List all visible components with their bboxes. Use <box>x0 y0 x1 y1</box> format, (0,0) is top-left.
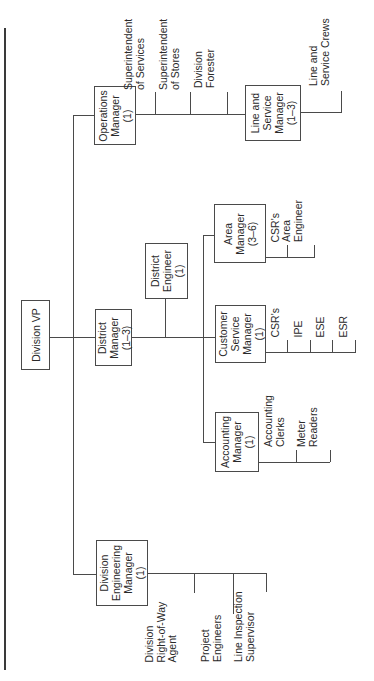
connector-operations-branch <box>135 114 245 115</box>
node-area-manager[interactable]: Area Manager (3–6) <box>214 204 266 263</box>
tick-line-crews <box>341 91 342 113</box>
tick-area-engineer <box>314 245 315 257</box>
node-label: Operations Manager (1) <box>97 90 133 141</box>
node-accounting-manager[interactable]: Accounting Manager (1) <box>215 412 259 472</box>
tick-supt-stores <box>190 92 191 114</box>
tick-line-inspection <box>266 573 267 592</box>
node-customer-service-manager[interactable]: Customer Service Manager (1) <box>215 305 266 363</box>
connector-operations <box>73 115 95 116</box>
connector-vp-spine <box>49 337 95 338</box>
connector-district-spine <box>203 235 204 443</box>
tick-supt-services <box>155 92 156 114</box>
node-label: District Engineer (1) <box>149 250 185 292</box>
tick-row-agent <box>194 573 195 593</box>
tick-area-csr <box>287 245 288 257</box>
node-district-engineer[interactable]: District Engineer (1) <box>145 243 188 299</box>
tick-cs-ipe <box>310 340 311 352</box>
node-label: Line and Service Manager (1–3) <box>249 92 297 133</box>
node-district-manager[interactable]: District Manager (1–3) <box>95 309 132 366</box>
node-division-vp[interactable]: Division VP <box>21 300 50 370</box>
tick-cs-csr <box>287 340 288 352</box>
node-division-engineering-manager[interactable]: Division Engineering Manager (1) <box>96 540 148 606</box>
connector-div-engineering <box>73 574 96 575</box>
connector-div-eng-branch <box>147 573 267 574</box>
connector-accounting-branch <box>258 462 330 463</box>
tick-acct-clerks <box>296 450 297 462</box>
node-label: Division VP <box>30 308 42 362</box>
connector-district-engineer <box>165 298 166 337</box>
connector-spine <box>73 115 74 575</box>
node-label: Area Manager (3–6) <box>222 213 258 254</box>
connector-line-crews <box>300 112 341 113</box>
node-label: Customer Service Manager (1) <box>217 311 265 357</box>
node-line-service-manager[interactable]: Line and Service Manager (1–3) <box>245 85 301 141</box>
page-edge-rule <box>4 28 6 670</box>
node-label: Accounting Manager (1) <box>219 416 255 468</box>
connector-area-branch <box>265 257 315 258</box>
connector-area <box>203 235 214 236</box>
node-label: Division Engineering Manager (1) <box>98 545 146 601</box>
node-operations-manager[interactable]: Operations Manager (1) <box>94 86 136 145</box>
connector-accounting <box>203 442 215 443</box>
tick-forester <box>227 92 228 114</box>
node-label: District Manager (1–3) <box>96 317 132 358</box>
tick-cs-ese <box>332 340 333 352</box>
connector-cs-branch <box>265 352 356 353</box>
tick-cs-esr <box>355 340 356 352</box>
tick-meter-readers <box>330 450 331 462</box>
